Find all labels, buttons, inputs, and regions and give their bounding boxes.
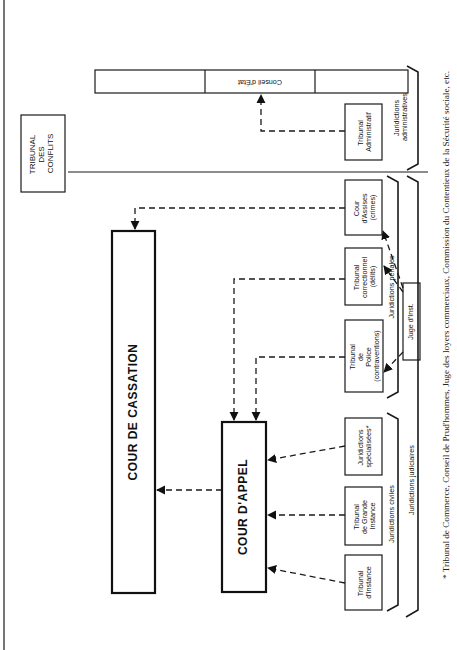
svg-text:Tribunal de Grande: Tribunal de Grande Instance xyxy=(352,498,377,534)
group-administratives-label: Juridictions administratives xyxy=(392,93,409,141)
cour-de-cassation-node: COUR DE CASSATION xyxy=(112,231,155,593)
tribunal-conflits-line2: DES xyxy=(37,146,46,162)
group-judiciaires-label: Juridictions judiciaires xyxy=(407,445,416,515)
group-civiles-label: Juridictions civiles xyxy=(387,485,396,543)
edge-assises-to-cassation xyxy=(135,208,345,229)
tribunal-grande-instance-node: Tribunal de Grande Instance xyxy=(345,487,382,545)
bracket-judiciaires xyxy=(406,176,418,617)
footnote: * Tribunal de Commerce, Conseil de Prud'… xyxy=(441,71,451,579)
edge-specialisees-to-appel xyxy=(268,446,345,460)
edge-instance-to-appel xyxy=(268,568,345,583)
tribunal-instance-node: Tribunal d'Instance xyxy=(345,555,382,610)
juge-instruction-label: Juge d'Inst. xyxy=(406,303,415,340)
svg-text:Juridictions spécialisée: Juridictions spécialisées* xyxy=(356,425,373,467)
edge-juge-to-police xyxy=(384,352,403,372)
conseil-etat-label: Conseil d'État xyxy=(238,78,282,87)
svg-text:Tribunal Administratif: Tribunal Administratif xyxy=(356,112,373,152)
edge-correctionnel-to-appel xyxy=(234,279,345,420)
edge-police-to-appel xyxy=(256,357,345,420)
cour-appel-label: COUR D'APPEL xyxy=(236,459,250,555)
svg-text:Tribunal d'Instance: Tribunal d'Instance xyxy=(356,566,373,599)
tribunal-police-node: Tribunal de Police (contraventions) xyxy=(345,320,383,392)
cour-assises-node: Cour d'Assises (crimes) xyxy=(345,180,382,235)
tribunal-des-conflits-node: TRIBUNAL DES CONFLITS xyxy=(21,115,65,192)
conseil-etat-node: Conseil d'État xyxy=(95,70,408,93)
tribunal-conflits-line3: CONFLITS xyxy=(46,134,55,174)
cour-cassation-label: COUR DE CASSATION xyxy=(126,344,140,481)
tribunal-administratif-node: Tribunal Administratif xyxy=(345,104,382,160)
group-penales-label: Juridictions pénales xyxy=(387,255,396,319)
edge-ta-to-conseil xyxy=(261,95,345,131)
tribunal-correctionnel-node: Tribunal correctionnel (délits) xyxy=(345,248,382,305)
cour-d-appel-node: COUR D'APPEL xyxy=(222,422,266,592)
court-system-diagram: TRIBUNAL DES CONFLITS Conseil d'État Tri… xyxy=(0,0,457,650)
tribunal-conflits-line1: TRIBUNAL xyxy=(28,134,37,174)
juridictions-specialisees-node: Juridictions spécialisées* xyxy=(345,418,382,475)
